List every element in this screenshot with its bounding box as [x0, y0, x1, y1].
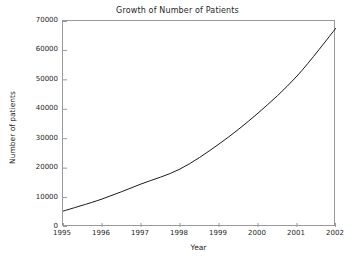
plot-svg — [63, 21, 336, 227]
plot-area — [62, 20, 335, 226]
x-axis-ticks — [64, 223, 336, 227]
x-tick-label: 2000 — [248, 229, 266, 237]
y-tick-label: 50000 — [36, 75, 58, 83]
x-tick-label: 1998 — [170, 229, 188, 237]
chart-title: Growth of Number of Patients — [0, 6, 355, 15]
chart-figure: Growth of Number of Patients Number of p… — [0, 0, 355, 270]
x-tick-label: 1995 — [53, 229, 71, 237]
y-tick-label: 20000 — [36, 163, 58, 171]
x-tick-label: 2001 — [287, 229, 305, 237]
y-tick-label: 40000 — [36, 104, 58, 112]
x-tick-label: 1999 — [209, 229, 227, 237]
y-tick-label: 30000 — [36, 134, 58, 142]
x-tick-label: 1997 — [131, 229, 149, 237]
x-tick-label: 2002 — [326, 229, 344, 237]
y-axis-ticks — [63, 22, 67, 227]
x-axis-label: Year — [62, 243, 335, 252]
x-tick-label: 1996 — [92, 229, 110, 237]
y-tick-label: 70000 — [36, 16, 58, 24]
y-axis-tick-labels: 010000200003000040000500006000070000 — [0, 20, 58, 226]
data-series-line — [63, 28, 336, 211]
y-tick-label: 10000 — [36, 193, 58, 201]
x-axis-tick-labels: 19951996199719981999200020012002 — [62, 229, 335, 241]
y-tick-label: 60000 — [36, 45, 58, 53]
